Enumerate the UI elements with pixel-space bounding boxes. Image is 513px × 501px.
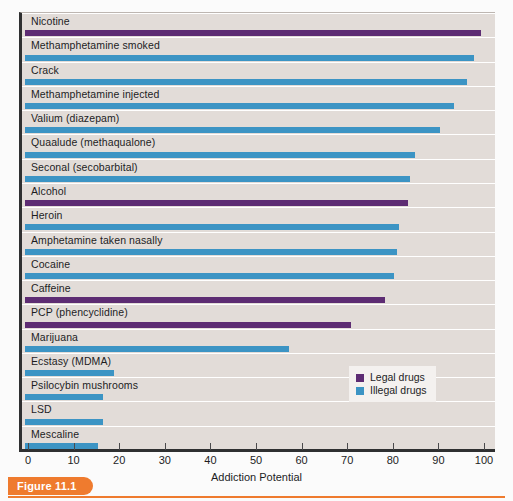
x-axis-tick — [165, 443, 166, 450]
bar-category-label: Psilocybin mushrooms — [31, 378, 138, 392]
bar — [25, 322, 351, 328]
x-axis-tick-label: 0 — [25, 454, 31, 466]
bar-row: Seconal (secobarbital) — [22, 159, 495, 183]
bar-row: Cocaine — [22, 256, 495, 280]
bar-row: Heroin — [22, 207, 495, 231]
bar-category-label: Crack — [31, 63, 59, 77]
bar — [25, 103, 454, 109]
bar-row: Mescaline — [22, 426, 495, 450]
x-axis-tick-label: 50 — [250, 454, 262, 466]
bar-row: Nicotine — [22, 13, 495, 37]
bar-category-label: Marijuana — [31, 330, 78, 344]
x-axis-tick — [28, 443, 29, 450]
bar-category-label: Mescaline — [31, 427, 79, 441]
figure-underline-rule — [8, 496, 505, 498]
bar-row: Quaalude (methaqualone) — [22, 134, 495, 158]
row-separator — [22, 207, 495, 208]
bar — [25, 55, 474, 61]
x-axis-tick-label: 70 — [341, 454, 353, 466]
bar-category-label: Caffeine — [31, 281, 71, 295]
bar-category-label: Ecstasy (MDMA) — [31, 354, 111, 368]
bar-category-label: Nicotine — [31, 14, 70, 28]
x-axis-tick — [119, 443, 120, 450]
bar-row: Caffeine — [22, 280, 495, 304]
chart-legend: Legal drugs Illegal drugs — [349, 366, 436, 402]
bar-category-label: LSD — [31, 402, 52, 416]
x-axis-tick — [438, 443, 439, 450]
legend-label-illegal: Illegal drugs — [370, 384, 427, 397]
bar — [25, 224, 399, 230]
bar-row: Marijuana — [22, 329, 495, 353]
figure-container: NicotineMethamphetamine smokedCrackMetha… — [0, 0, 513, 501]
bar — [25, 370, 114, 376]
row-separator — [22, 329, 495, 330]
row-separator — [22, 62, 495, 63]
legend-label-legal: Legal drugs — [370, 371, 425, 384]
figure-number-badge: Figure 11.1 — [8, 477, 93, 495]
bar-category-label: Methamphetamine smoked — [31, 38, 160, 52]
bar-category-label: Valium (diazepam) — [31, 111, 119, 125]
x-axis-tick-label: 100 — [475, 454, 493, 466]
bar-row: Methamphetamine injected — [22, 86, 495, 110]
bar — [25, 346, 289, 352]
bar-category-label: PCP (phencyclidine) — [31, 305, 128, 319]
bar-category-label: Amphetamine taken nasally — [31, 233, 163, 247]
x-axis-tick — [74, 443, 75, 450]
bar — [25, 297, 385, 303]
bar — [25, 152, 415, 158]
x-axis-tick — [484, 443, 485, 450]
x-axis-tick-label: 40 — [204, 454, 216, 466]
legend-item-illegal: Illegal drugs — [356, 384, 427, 397]
row-separator — [22, 280, 495, 281]
bar — [25, 394, 103, 400]
legend-swatch-legal-icon — [356, 374, 364, 382]
bar-row: Valium (diazepam) — [22, 110, 495, 134]
row-separator — [22, 256, 495, 257]
x-axis-tick-label: 20 — [113, 454, 125, 466]
bar-row: PCP (phencyclidine) — [22, 304, 495, 328]
bar — [25, 176, 410, 182]
x-axis-tick-label: 90 — [432, 454, 444, 466]
row-separator — [22, 13, 495, 14]
legend-item-legal: Legal drugs — [356, 371, 427, 384]
bar-category-label: Cocaine — [31, 257, 70, 271]
x-axis-line — [19, 449, 495, 452]
bar-category-label: Quaalude (methaqualone) — [31, 135, 155, 149]
bar-row: Alcohol — [22, 183, 495, 207]
bar-category-label: Methamphetamine injected — [31, 87, 159, 101]
bar-row: Crack — [22, 62, 495, 86]
x-axis-tick — [256, 443, 257, 450]
bar-row: LSD — [22, 401, 495, 425]
x-axis-tick — [210, 443, 211, 450]
bar — [25, 200, 408, 206]
x-axis-tick-label: 60 — [295, 454, 307, 466]
legend-swatch-illegal-icon — [356, 387, 364, 395]
x-axis-tick — [302, 443, 303, 450]
bar — [25, 79, 467, 85]
row-separator — [22, 183, 495, 184]
bar-category-label: Seconal (secobarbital) — [31, 160, 138, 174]
bar-row: Methamphetamine smoked — [22, 37, 495, 61]
bar — [25, 127, 440, 133]
bar — [25, 30, 481, 36]
x-axis-tick-label: 30 — [159, 454, 171, 466]
bar — [25, 249, 397, 255]
x-axis-tick-label: 10 — [67, 454, 79, 466]
bar — [25, 273, 394, 279]
bar-category-label: Heroin — [31, 208, 63, 222]
bar-row: Amphetamine taken nasally — [22, 232, 495, 256]
row-separator — [22, 426, 495, 427]
bar-category-label: Alcohol — [31, 184, 66, 198]
x-axis-tick-label: 80 — [387, 454, 399, 466]
bar — [25, 419, 103, 425]
x-axis-tick — [393, 443, 394, 450]
x-axis-tick — [347, 443, 348, 450]
